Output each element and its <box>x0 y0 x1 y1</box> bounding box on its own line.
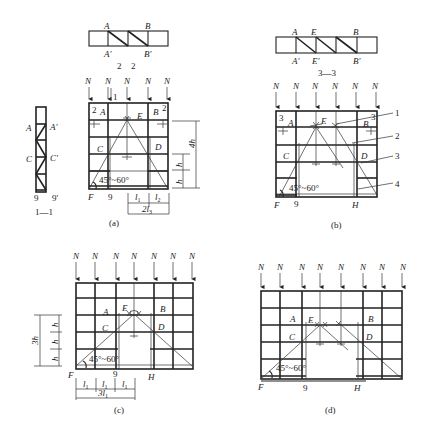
plan-label-b: B <box>145 21 151 31</box>
panel-a-plan: A B A' B' 2 2 <box>89 21 168 71</box>
load-label: N <box>351 81 359 91</box>
node-9: 9 <box>108 192 113 202</box>
load-label: N <box>359 262 367 272</box>
node-a: A <box>102 307 109 317</box>
dim-4h: 4h <box>187 139 197 149</box>
callout-3: 3 <box>395 151 400 161</box>
caption-a: (a) <box>109 218 119 228</box>
caption-c: (c) <box>114 405 124 415</box>
load-label: N <box>144 76 152 86</box>
dim-h: h <box>50 356 60 361</box>
dim-h: h <box>50 339 60 344</box>
node-a: A <box>287 118 294 128</box>
corner-mark-left: 3 <box>279 113 284 123</box>
panel-a: A B A' B' 2 2 N N N N N 1 <box>84 21 200 228</box>
dim-2l3: 2l3 <box>142 204 152 215</box>
node-f: F <box>67 370 74 380</box>
dim-3h: 3h <box>30 336 40 347</box>
load-label: N <box>399 262 407 272</box>
node-9: 9 <box>113 369 118 379</box>
section-mark-1: 1 <box>113 92 118 102</box>
node-d: D <box>157 322 165 332</box>
load-label: N <box>188 251 196 261</box>
section-1-1: A A' C C' 9 9' 1—1 <box>25 107 59 217</box>
load-label: N <box>163 76 171 86</box>
dim-l2: l2 <box>155 192 161 203</box>
node-a: A <box>99 107 106 117</box>
load-label: N <box>331 81 339 91</box>
panel-b-frame: 3 3 A B E C D 45°~60° F 9 H <box>273 111 377 210</box>
callout-2: 2 <box>395 131 400 141</box>
plan-label-a: A <box>291 27 298 37</box>
sec-label-c-prime: C' <box>50 153 59 163</box>
plan-label-e-prime: E' <box>311 56 320 66</box>
load-label: N <box>130 251 138 261</box>
plan-label-a-prime: A' <box>291 56 300 66</box>
load-label: N <box>292 81 300 91</box>
load-label: N <box>276 262 284 272</box>
node-d: D <box>360 151 368 161</box>
panel-d: N N N N N N N N <box>257 262 407 415</box>
node-a: A <box>289 314 296 324</box>
load-label: N <box>316 262 324 272</box>
dim-h-upper: h <box>174 162 184 167</box>
panel-a-loads: N N N N N 1 <box>84 76 171 102</box>
sec-label-c: C <box>26 154 33 164</box>
node-c: C <box>102 323 109 333</box>
panel-c-frame: A B E C D 45°~60° F 9 H <box>67 283 193 382</box>
node-d: D <box>365 332 373 342</box>
plan-label-b-prime: B' <box>144 49 152 59</box>
load-label: N <box>72 251 80 261</box>
caption-b: (b) <box>331 220 342 230</box>
node-h: H <box>351 200 359 210</box>
load-label: N <box>272 81 280 91</box>
load-label: N <box>311 81 319 91</box>
angle-label: 45°~60° <box>89 354 119 364</box>
angle-label: 45°~60° <box>99 175 129 185</box>
node-f: F <box>257 382 264 392</box>
node-d: D <box>154 142 162 152</box>
angle-label: 45°~60° <box>276 363 306 373</box>
load-label: N <box>104 76 112 86</box>
dim-l1: l1 <box>83 379 89 390</box>
load-label: N <box>169 251 177 261</box>
plan-label-b: B <box>353 27 359 37</box>
panel-c: N N N N N N N <box>30 251 196 415</box>
sec-label-9-prime: 9' <box>52 193 59 203</box>
plan-label-a-prime: A' <box>103 49 112 59</box>
load-label: N <box>371 81 379 91</box>
dim-l1: l1 <box>135 192 141 203</box>
dim-h: h <box>50 322 60 327</box>
sec-label-a-prime: A' <box>49 122 58 132</box>
node-c: C <box>289 332 296 342</box>
node-f: F <box>273 200 280 210</box>
load-label: N <box>91 251 99 261</box>
section-caption-3-3: 3—3 <box>318 68 337 78</box>
dim-l1: l1 <box>122 379 128 390</box>
node-c: C <box>283 151 290 161</box>
load-label: N <box>84 76 92 86</box>
section-mark-2-left: 2 <box>117 61 122 71</box>
corner-mark-right: 2 <box>162 103 167 113</box>
plan-label-e: E <box>310 27 317 37</box>
node-f: F <box>87 192 94 202</box>
node-b: B <box>368 314 374 324</box>
node-9: 9 <box>303 383 308 393</box>
node-h: H <box>147 372 155 382</box>
load-label: N <box>123 76 131 86</box>
node-c: C <box>97 144 104 154</box>
panel-a-dimensions: 4h h h l1 l2 2l3 <box>128 121 200 215</box>
panel-a-frame: 2 2 A B E C D 45°~60° F 9 <box>87 103 168 202</box>
dim-h-lower: h <box>174 179 184 184</box>
section-mark-2-right: 2 <box>131 61 136 71</box>
load-label: N <box>257 262 265 272</box>
load-label: N <box>337 262 345 272</box>
panel-d-loads: N N N N N N N N <box>257 262 407 287</box>
node-e: E <box>121 303 128 313</box>
plan-label-b-prime: B' <box>353 56 361 66</box>
load-label: N <box>298 262 306 272</box>
node-b: B <box>160 304 166 314</box>
load-label: N <box>150 251 158 261</box>
sec-label-9: 9 <box>34 193 39 203</box>
panel-b-loads: N N N N N N <box>272 81 379 107</box>
